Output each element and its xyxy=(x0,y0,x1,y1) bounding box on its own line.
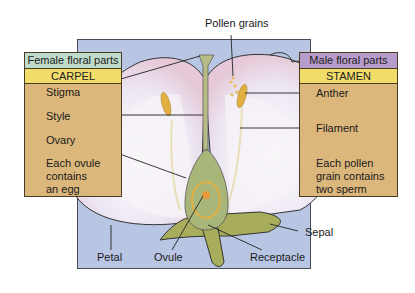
receptacle-label: Receptacle xyxy=(250,251,305,264)
male-parts-header: Male floral parts xyxy=(300,53,397,69)
anther-label: Anther xyxy=(316,87,348,100)
ovule-label: Ovule xyxy=(154,251,183,264)
female-parts-header: Female floral parts xyxy=(25,53,121,69)
female-note: Each ovule contains an egg xyxy=(46,157,100,196)
style-label: Style xyxy=(46,110,70,123)
carpel-title: CARPEL xyxy=(25,69,121,84)
stamen-title: STAMEN xyxy=(300,69,397,84)
filament-label: Filament xyxy=(316,122,358,135)
pollen-grains-label: Pollen grains xyxy=(205,17,269,30)
ovary-label: Ovary xyxy=(46,134,75,147)
sepal-label: Sepal xyxy=(305,226,333,239)
stigma-label: Stigma xyxy=(46,86,80,99)
male-note: Each pollen grain contains two sperm xyxy=(316,157,385,196)
petal-label: Petal xyxy=(97,251,122,264)
